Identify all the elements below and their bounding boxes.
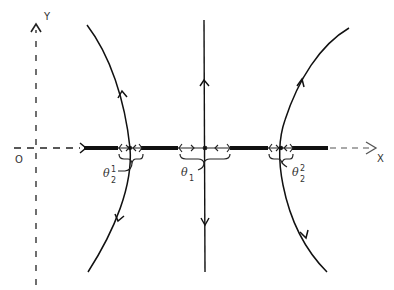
svg-text:θ: θ [292,166,299,179]
svg-text:1: 1 [111,165,116,174]
svg-text:2: 2 [300,175,305,184]
svg-text:1: 1 [189,174,194,183]
center-trajectory [200,20,209,272]
y-axis-label: Y [43,11,51,22]
phase-portrait-diagram: Y X O [0,0,394,290]
svg-text:θ: θ [181,166,188,179]
svg-text:2: 2 [300,164,305,173]
label-theta2-1: θ 1 2 [103,165,116,185]
svg-text:θ: θ [103,167,110,180]
y-axis [31,24,41,285]
brace-theta2-2 [269,154,293,167]
origin-label: O [15,154,23,165]
label-theta2-2: θ 2 2 [292,164,305,184]
label-theta1: θ 1 [181,166,194,183]
svg-text:2: 2 [111,176,116,185]
x-axis-label: X [377,153,384,164]
